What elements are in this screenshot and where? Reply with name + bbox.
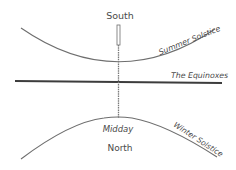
equinoxes-label: The Equinoxes [171, 71, 228, 80]
south-label: South [106, 10, 134, 21]
winter-solstice-label: Winter Solstice [172, 120, 225, 159]
gnomon-top [117, 25, 120, 45]
sun-path-diagram: South Summer Solstice The Equinoxes Midd… [0, 0, 236, 170]
summer-solstice-label: Summer Solstice [157, 24, 222, 57]
midday-label: Midday [103, 124, 135, 134]
north-label: North [107, 143, 132, 153]
